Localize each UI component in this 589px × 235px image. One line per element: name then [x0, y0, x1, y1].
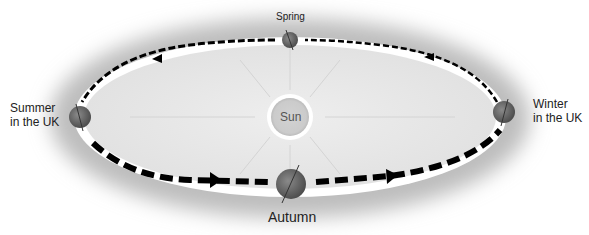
winter-label-line1: Winter [533, 97, 582, 111]
autumn-label: Autumn [268, 210, 316, 224]
summer-label-line1: Summer [10, 101, 59, 115]
winter-label-line2: in the UK [533, 111, 582, 125]
winter-label: Winter in the UK [533, 97, 582, 125]
summer-label: Summer in the UK [10, 101, 59, 129]
orbit-diagram: Sun Spring Summer in the UK Autumn Winte… [0, 0, 589, 235]
summer-label-line2: in the UK [10, 115, 59, 129]
sun-label: Sun [280, 110, 301, 124]
spring-label: Spring [276, 10, 305, 24]
